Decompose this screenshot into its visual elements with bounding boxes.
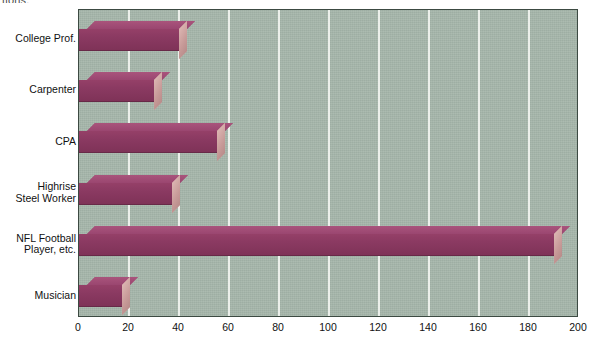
x-tick-label-120: 120 <box>369 321 387 333</box>
gridline-20 <box>128 10 130 316</box>
gridline-120 <box>378 10 380 316</box>
category-label: CPA <box>0 136 76 148</box>
x-tick-label-20: 20 <box>122 321 134 333</box>
x-axis-tick-labels: 020406080100120140160180200 <box>0 321 599 339</box>
bar-front-face <box>79 234 554 256</box>
gridline-60 <box>228 10 230 316</box>
bar-side-face <box>154 72 162 110</box>
plot-area <box>78 9 578 317</box>
category-label: Highrise Steel Worker <box>0 181 76 204</box>
bar <box>79 277 122 299</box>
bar-front-face <box>79 29 179 51</box>
bar <box>79 72 154 94</box>
x-tick-label-0: 0 <box>75 321 81 333</box>
bar-front-face <box>79 183 172 205</box>
bar <box>79 123 217 145</box>
bar-side-face <box>554 226 562 264</box>
bar-front-face <box>79 131 217 153</box>
gridline-100 <box>328 10 330 316</box>
bar-side-face <box>217 123 225 161</box>
x-tick-label-180: 180 <box>519 321 537 333</box>
gridline-180 <box>528 10 530 316</box>
bar <box>79 226 554 248</box>
category-label: Carpenter <box>0 84 76 96</box>
bar-top-face <box>87 226 570 234</box>
bar-top-face <box>87 123 233 131</box>
bar-side-face <box>179 21 187 59</box>
category-label: NFL Football Player, etc. <box>0 233 76 256</box>
bar-chart-figure: College Prof.CarpenterCPAHighrise Steel … <box>0 0 599 346</box>
x-tick-label-60: 60 <box>222 321 234 333</box>
x-tick-label-40: 40 <box>172 321 184 333</box>
gridline-80 <box>278 10 280 316</box>
bar-front-face <box>79 80 154 102</box>
x-tick-label-160: 160 <box>469 321 487 333</box>
x-tick-label-140: 140 <box>419 321 437 333</box>
category-label: College Prof. <box>0 33 76 45</box>
bar <box>79 21 179 43</box>
gridline-160 <box>478 10 480 316</box>
x-tick-label-200: 200 <box>569 321 587 333</box>
x-tick-label-80: 80 <box>272 321 284 333</box>
bar-front-face <box>79 285 122 307</box>
gridline-140 <box>428 10 430 316</box>
x-tick-label-100: 100 <box>319 321 337 333</box>
bar <box>79 175 172 197</box>
category-label: Musician <box>0 290 76 302</box>
